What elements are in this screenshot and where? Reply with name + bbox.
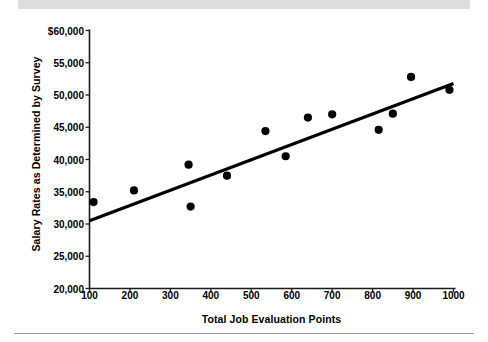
data-points-group — [89, 73, 453, 211]
data-point — [261, 127, 269, 135]
data-point — [184, 161, 192, 169]
data-point — [375, 126, 383, 134]
y-tick-label: 25,000 — [28, 251, 84, 262]
data-point — [328, 110, 336, 118]
y-tick-label: 50,000 — [28, 90, 84, 101]
y-tick-label: 45,000 — [28, 122, 84, 133]
axis-tick-marks — [86, 31, 454, 293]
data-point — [89, 198, 97, 206]
data-point — [282, 152, 290, 160]
x-axis-title: Total Job Evaluation Points — [89, 313, 454, 325]
y-tick-label: 40,000 — [28, 154, 84, 165]
data-point — [389, 110, 397, 118]
data-point — [407, 73, 415, 81]
trendline — [90, 83, 454, 220]
data-point — [223, 172, 231, 180]
data-point — [304, 113, 312, 121]
data-point — [187, 202, 195, 210]
top-divider-band — [18, 0, 470, 9]
y-tick-label: 55,000 — [28, 57, 84, 68]
axes-group — [90, 30, 456, 289]
trendline-segment — [90, 83, 454, 220]
data-point — [445, 86, 453, 94]
y-tick-label: $60,000 — [28, 25, 84, 36]
scatter-plot-figure: Salary Rates as Determined by Survey Tot… — [0, 0, 488, 342]
y-tick-label: 30,000 — [28, 219, 84, 230]
y-tick-label: 35,000 — [28, 186, 84, 197]
x-tick-label: 1000 — [429, 290, 479, 301]
data-point — [130, 186, 138, 194]
